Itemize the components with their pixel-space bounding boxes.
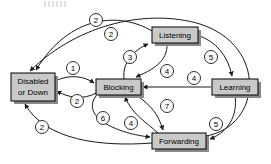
badge-label: 2 bbox=[75, 97, 80, 106]
edge-listening-to-disabled bbox=[36, 20, 152, 70]
badge-label: 2 bbox=[109, 30, 114, 39]
badge-forwarding-to-blocking: 4 bbox=[125, 117, 138, 130]
node-disabled-label-line2: or Down bbox=[18, 88, 48, 97]
badge-blocking-to-listening: 3 bbox=[124, 51, 137, 64]
badge-label: 2 bbox=[40, 123, 45, 132]
node-layer: Disabled or Down Blocking Listening Lear… bbox=[11, 27, 261, 152]
node-blocking-label: Blocking bbox=[103, 83, 133, 92]
node-disabled-or-down[interactable]: Disabled or Down bbox=[11, 73, 58, 104]
badge-label: 5 bbox=[214, 120, 219, 129]
badge-disabled-to-blocking: 1 bbox=[67, 62, 80, 75]
badge-label: 3 bbox=[128, 53, 133, 62]
badge-label: 4 bbox=[165, 67, 170, 76]
badge-label: 2 bbox=[94, 16, 99, 25]
badge-label: 5 bbox=[209, 53, 214, 62]
badge-label: 7 bbox=[165, 102, 170, 111]
badge-learning-to-forwarding: 5 bbox=[210, 118, 223, 131]
badge-learning-to-blocking: 4 bbox=[188, 72, 201, 85]
node-disabled-label-line1: Disabled bbox=[17, 77, 48, 86]
node-blocking[interactable]: Blocking bbox=[96, 79, 144, 98]
badge-blocking-to-forwarding: 7 bbox=[161, 100, 174, 113]
badge-listening-to-disabled: 2 bbox=[90, 14, 103, 27]
edge-disabled-to-blocking bbox=[55, 77, 94, 83]
badge-label: 6 bbox=[101, 114, 106, 123]
node-listening-label: Listening bbox=[159, 31, 191, 40]
state-transition-diagram: Disabled or Down Blocking Listening Lear… bbox=[0, 0, 271, 164]
badge-blocking-to-forwarding-lower: 6 bbox=[97, 112, 110, 125]
diagram-canvas: Disabled or Down Blocking Listening Lear… bbox=[0, 0, 271, 164]
node-listening[interactable]: Listening bbox=[152, 27, 201, 46]
node-forwarding[interactable]: Forwarding bbox=[152, 133, 209, 152]
badge-forwarding-to-disabled-top: 2 bbox=[105, 28, 118, 41]
badge-label: 4 bbox=[192, 74, 197, 83]
edge-blocking-to-forwarding bbox=[136, 95, 163, 130]
node-forwarding-label: Forwarding bbox=[159, 137, 199, 146]
badge-forwarding-to-disabled-bottom: 2 bbox=[36, 121, 49, 134]
badge-label: 1 bbox=[71, 64, 76, 73]
badge-label: 4 bbox=[129, 119, 134, 128]
edge-learning-to-forwarding bbox=[210, 95, 236, 139]
node-learning-label: Learning bbox=[219, 83, 250, 92]
badge-listening-to-blocking: 4 bbox=[161, 65, 174, 78]
badge-listening-to-learning: 5 bbox=[205, 51, 218, 64]
node-learning[interactable]: Learning bbox=[212, 79, 261, 98]
badge-blocking-to-disabled: 2 bbox=[71, 95, 84, 108]
